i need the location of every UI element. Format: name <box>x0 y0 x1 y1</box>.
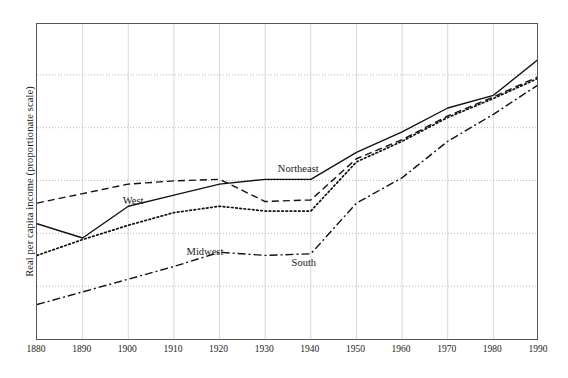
x-tick-1880: 1880 <box>13 344 59 354</box>
series-label-midwest: Midwest <box>187 246 224 257</box>
x-tick-1990: 1990 <box>515 344 561 354</box>
x-tick-1890: 1890 <box>59 344 105 354</box>
x-tick-1960: 1960 <box>378 344 424 354</box>
series-line-south <box>37 84 538 304</box>
x-tick-1920: 1920 <box>196 344 242 354</box>
x-tick-1910: 1910 <box>150 344 196 354</box>
x-tick-1930: 1930 <box>241 344 287 354</box>
series-label-south: South <box>292 257 317 268</box>
x-tick-1900: 1900 <box>104 344 150 354</box>
chart-figure: Real per capita income (proportionate sc… <box>0 0 568 378</box>
x-tick-1980: 1980 <box>469 344 515 354</box>
series-label-west: West <box>123 195 144 206</box>
y-axis-label: Real per capita income (proportionate sc… <box>24 57 35 307</box>
data-layer <box>37 24 538 340</box>
series-line-west <box>37 76 538 203</box>
series-label-northeast: Northeast <box>278 163 319 174</box>
plot-area <box>36 23 538 340</box>
x-tick-1950: 1950 <box>332 344 378 354</box>
x-tick-1940: 1940 <box>287 344 333 354</box>
x-tick-1970: 1970 <box>424 344 470 354</box>
